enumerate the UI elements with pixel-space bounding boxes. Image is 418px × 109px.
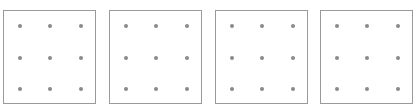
- grid-dot-r2-c3: [185, 56, 189, 60]
- grid-dot-r1-c3: [79, 24, 83, 28]
- grid-dot-r3-c3: [291, 87, 295, 91]
- grid-dot-r1-c2: [260, 24, 264, 28]
- grid-dot-r2-c2: [154, 56, 158, 60]
- grid-dot-r1-c2: [365, 24, 369, 28]
- grid-dot-r1-c1: [124, 24, 128, 28]
- grid-dot-r1-c1: [335, 24, 339, 28]
- grid-dot-r3-c3: [79, 87, 83, 91]
- grid-dot-r1-c2: [48, 24, 52, 28]
- grid-dot-r2-c1: [335, 56, 339, 60]
- grid-dot-r2-c3: [79, 56, 83, 60]
- grid-dot-r1-c1: [230, 24, 234, 28]
- grid-dot-r3-c1: [124, 87, 128, 91]
- grid-dot-r1-c2: [154, 24, 158, 28]
- grid-dot-r3-c3: [396, 87, 400, 91]
- grid-dot-r1-c3: [396, 24, 400, 28]
- grid-dot-r2-c2: [48, 56, 52, 60]
- grid-dot-r2-c3: [396, 56, 400, 60]
- grid-dot-r3-c2: [260, 87, 264, 91]
- grid-dot-r3-c1: [335, 87, 339, 91]
- grid-dot-r3-c2: [365, 87, 369, 91]
- grid-dot-r3-c3: [185, 87, 189, 91]
- grid-dot-r1-c1: [18, 24, 22, 28]
- grid-dot-r1-c3: [291, 24, 295, 28]
- grid-dot-r1-c3: [185, 24, 189, 28]
- grid-dot-r2-c1: [18, 56, 22, 60]
- dot-grid-panel-2: [109, 10, 202, 104]
- grid-dot-r3-c2: [48, 87, 52, 91]
- grid-dot-r2-c2: [260, 56, 264, 60]
- dot-grid-panel-1: [3, 10, 96, 104]
- dot-grid-panel-3: [215, 10, 308, 104]
- grid-dot-r2-c1: [124, 56, 128, 60]
- grid-dot-r3-c2: [154, 87, 158, 91]
- grid-dot-r3-c1: [230, 87, 234, 91]
- dot-grid-panel-4: [320, 10, 413, 104]
- grid-dot-r3-c1: [18, 87, 22, 91]
- grid-dot-r2-c1: [230, 56, 234, 60]
- grid-dot-r2-c2: [365, 56, 369, 60]
- grid-dot-r2-c3: [291, 56, 295, 60]
